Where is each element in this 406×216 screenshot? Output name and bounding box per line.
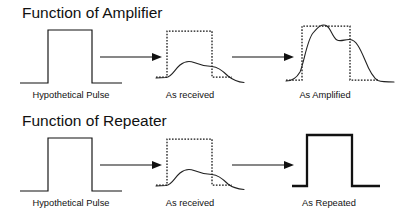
- arrow-amp-received-to-amplified: [232, 53, 294, 61]
- arrow-rep-input-to-received: [100, 161, 162, 169]
- diagram-root: Function of Amplifier Hypothetical Pulse…: [0, 0, 406, 216]
- arrow-amp-input-to-received: [100, 53, 162, 61]
- section-repeater: Function of Repeater Hypothetical Pulse …: [20, 112, 380, 208]
- panel-rep-output: As Repeated: [292, 135, 380, 208]
- caption-as-repeated: As Repeated: [302, 198, 356, 208]
- caption-hypothetical-pulse: Hypothetical Pulse: [33, 90, 110, 100]
- panel-rep-received: As received: [156, 139, 244, 208]
- repeated-pulse-waveform: [292, 135, 380, 186]
- received-signal-curve: [156, 61, 244, 82]
- arrow-rep-received-to-repeated: [232, 161, 294, 169]
- section-amplifier: Function of Amplifier Hypothetical Pulse…: [20, 4, 394, 100]
- section-heading-repeater: Function of Repeater: [22, 112, 167, 129]
- panel-amp-received: As received: [156, 31, 244, 100]
- caption-hypothetical-pulse-repeater: Hypothetical Pulse: [33, 198, 110, 208]
- panel-amp-output: As Amplified: [286, 25, 394, 100]
- panel-rep-input: Hypothetical Pulse: [20, 138, 122, 208]
- caption-as-amplified: As Amplified: [299, 90, 350, 100]
- caption-as-received: As received: [166, 90, 215, 100]
- received-signal-curve-repeater: [156, 169, 244, 189]
- section-heading-amplifier: Function of Amplifier: [22, 4, 162, 21]
- signal-amplifier-repeater-diagram: Function of Amplifier Hypothetical Pulse…: [0, 0, 406, 216]
- panel-amp-input: Hypothetical Pulse: [20, 30, 122, 100]
- caption-as-received-repeater: As received: [166, 198, 215, 208]
